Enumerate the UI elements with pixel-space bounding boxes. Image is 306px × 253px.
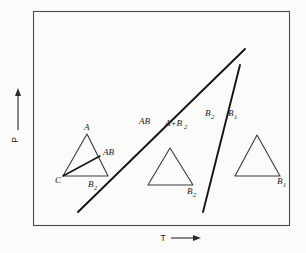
middle-triangle	[148, 148, 193, 185]
vertex-label-c: C	[55, 175, 62, 185]
field-label-b1: B 1	[228, 108, 237, 120]
vertex-label-b2-middle-sub: 2	[193, 191, 197, 198]
vertex-label-ab-interior: AB	[102, 147, 114, 157]
phase-diagram-figure: P T AB A+B 2 B 2 B 1 A C B 2 AB B 2	[0, 0, 306, 253]
x-axis-arrow-group	[171, 235, 201, 241]
figure-container: P T AB A+B 2 B 2 B 1 A C B 2 AB B 2	[0, 0, 306, 253]
vertex-label-b1-right-sub: 1	[283, 181, 286, 188]
vertex-label-b2-left-sub: 2	[94, 184, 98, 191]
field-label-b1-sub: 1	[234, 113, 237, 120]
y-axis-arrow-group	[15, 88, 21, 130]
vertex-label-b2-middle: B 2	[187, 186, 197, 198]
field-label-a-plus-b2-sub: 2	[184, 123, 188, 130]
x-axis-label: T	[160, 233, 165, 243]
field-label-a-plus-b2: A+B 2	[164, 118, 188, 130]
vertex-label-b2-left: B 2	[88, 179, 98, 191]
field-label-a-plus-b2-text: A+B	[164, 118, 183, 128]
vertex-label-b1-right: B 1	[277, 176, 286, 188]
up-arrow-icon	[15, 88, 21, 96]
phase-boundary-ab	[78, 49, 245, 212]
plot-frame	[34, 12, 290, 226]
field-label-ab: AB	[138, 116, 150, 126]
right-arrow-icon	[193, 235, 201, 241]
field-label-b2: B 2	[205, 108, 215, 120]
field-label-b2-sub: 2	[211, 113, 215, 120]
phase-boundary-b2-b1	[203, 65, 240, 212]
y-axis-label: P	[10, 137, 20, 143]
left-triangle	[63, 134, 108, 176]
right-triangle	[235, 135, 280, 176]
vertex-label-a: A	[83, 122, 90, 132]
